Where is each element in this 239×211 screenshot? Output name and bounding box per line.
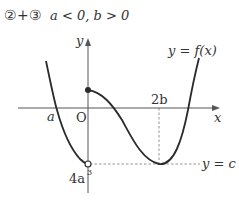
four-a-cubed-label: 4a	[69, 171, 85, 186]
y-axis-label: y	[75, 33, 84, 48]
origin-label: O	[76, 110, 87, 125]
curve-label: y = f(x)	[167, 43, 217, 58]
graph-figure: ②+③ a < 0, b > 0 y x O a 2b 4a 3 y = f(x…	[0, 0, 239, 211]
title-case: ②+③	[4, 7, 42, 23]
curve-right-branch	[88, 58, 199, 164]
filled-point	[85, 87, 91, 93]
x-axis-label: x	[214, 110, 222, 125]
title-condition: a < 0, b > 0	[50, 8, 129, 23]
four-a-cubed-exponent: 3	[87, 168, 92, 177]
two-b-label: 2b	[151, 92, 168, 107]
y-axis-arrow-icon	[85, 38, 91, 46]
open-point	[85, 161, 91, 167]
a-label: a	[47, 109, 55, 124]
line-c-label: y = c	[201, 156, 237, 171]
